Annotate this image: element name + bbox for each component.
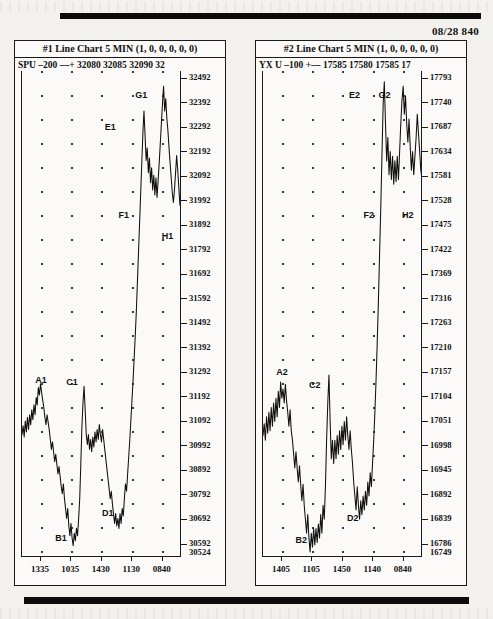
y-tick-label: 17369 <box>430 268 451 278</box>
y-tick-label: 31892 <box>189 219 210 229</box>
y-tick-label: 32092 <box>189 170 210 180</box>
y-tick-label: 17051 <box>430 415 451 425</box>
chart-2-grid-column <box>373 71 375 557</box>
chart-1-y-tick: 31592 <box>181 293 225 303</box>
chart-1-x-tickmark <box>162 557 163 561</box>
chart-2-x-label: 1450 <box>333 564 351 574</box>
chart-2-y-tick: 16839 <box>422 513 466 523</box>
chart-1-x-tickmark <box>101 557 102 561</box>
chart-2-quote-line: YX U –100 +–– 17585 17580 17585 17 <box>256 58 466 72</box>
date-stamp: 08/28 840 <box>432 25 479 37</box>
chart-1-y-tick: 30992 <box>181 440 225 450</box>
chart-1-y-tick: 30892 <box>181 464 225 474</box>
chart-1-y-tick: 31992 <box>181 195 225 205</box>
chart-2-y-tick: 17210 <box>422 342 466 352</box>
chart-1-point-label-g1: G1 <box>135 90 147 100</box>
chart-1-y-tick: 31292 <box>181 366 225 376</box>
chart-2-y-tick: 17369 <box>422 268 466 278</box>
chart-2-title: #2 Line Chart 5 MIN (1, 0, 0, 0, 0, 0) <box>256 41 466 58</box>
chart-2-y-tick: 17581 <box>422 170 466 180</box>
chart-1-quote-line: SPU –200 ––+ 32080 32085 32090 32 <box>15 58 225 72</box>
chart-2-y-tick: 16945 <box>422 464 466 474</box>
chart-2-y-tick: 17263 <box>422 317 466 327</box>
y-tick-label: 17210 <box>430 342 451 352</box>
y-tick-label: 17740 <box>430 97 451 107</box>
chart-1-point-label-c1: C1 <box>66 377 78 387</box>
chart-1-y-tick: 31192 <box>181 391 225 401</box>
y-tick-label: 17263 <box>430 317 451 327</box>
y-tick-label: 30892 <box>189 464 210 474</box>
chart-1-y-tick: 32492 <box>181 72 225 82</box>
chart-2-y-tick: 17316 <box>422 293 466 303</box>
chart-2-x-tickmark <box>372 557 373 561</box>
top-rule <box>60 13 481 19</box>
y-tick-label: 17793 <box>430 72 451 82</box>
y-tick-label: 17475 <box>430 219 451 229</box>
chart-2-point-label-c2: C2 <box>309 380 321 390</box>
chart-2-x-axis: 14051105145011400840 <box>262 556 422 585</box>
chart-1-grid-column <box>162 71 164 557</box>
y-tick-label: 17104 <box>430 391 451 401</box>
chart-2-y-tick: 17475 <box>422 219 466 229</box>
y-tick-label: 32392 <box>189 97 210 107</box>
chart-2-plot: A2B2C2D2E2F2G2H2 <box>262 71 422 557</box>
chart-1-point-label-a1: A1 <box>35 375 47 385</box>
y-tick-label: 16945 <box>430 464 451 474</box>
y-tick-label: 17157 <box>430 366 451 376</box>
chart-1-y-tick: 32192 <box>181 146 225 156</box>
chart-2-y-tick: 17104 <box>422 391 466 401</box>
y-tick-label: 17634 <box>430 146 451 156</box>
y-tick-label: 17687 <box>430 121 451 131</box>
chart-2-grid-column <box>312 71 314 557</box>
chart-1-point-label-e1: E1 <box>105 122 116 132</box>
chart-2-y-bottom-label: 16749 <box>422 547 474 557</box>
chart-2-y-tick: 17157 <box>422 366 466 376</box>
chart-2-x-tickmark <box>342 557 343 561</box>
chart-1-grid-column <box>101 71 103 557</box>
y-tick-label: 31792 <box>189 244 210 254</box>
y-tick-label: 16839 <box>430 513 451 523</box>
scan-speckle-top <box>0 2 493 12</box>
y-tick-label: 31192 <box>189 391 210 401</box>
chart-1-y-tick: 32392 <box>181 97 225 107</box>
chart-1-point-label-d1: D1 <box>102 508 114 518</box>
y-tick-label: 30792 <box>189 489 210 499</box>
chart-2-x-label: 1105 <box>303 564 321 574</box>
y-tick-label: 32492 <box>189 72 210 82</box>
chart-2-point-label-h2: H2 <box>402 210 414 220</box>
chart-1-body: A1B1C1D1E1F1G1H1 32492323923229232192320… <box>15 71 225 557</box>
y-tick-label: 31992 <box>189 195 210 205</box>
chart-2-y-tick: 17687 <box>422 121 466 131</box>
chart-2-grid-column <box>282 71 284 557</box>
chart-1-y-axis: 3249232392322923219232092319923189231792… <box>180 71 225 557</box>
chart-2-x-tickmark <box>403 557 404 561</box>
chart-1-y-tick: 31692 <box>181 268 225 278</box>
chart-2-x-tickmark <box>281 557 282 561</box>
chart-1-point-label-f1: F1 <box>118 210 129 220</box>
y-tick-label: 31592 <box>189 293 210 303</box>
y-tick-label: 17422 <box>430 244 451 254</box>
y-tick-label: 31692 <box>189 268 210 278</box>
chart-1-grid-column <box>41 71 43 557</box>
chart-2-point-label-f2: F2 <box>363 210 374 220</box>
chart-1-x-label: 1335 <box>31 564 49 574</box>
chart-2-x-tickmark <box>311 557 312 561</box>
chart-1-y-tick: 32292 <box>181 121 225 131</box>
chart-2-point-label-b2: B2 <box>295 535 307 545</box>
chart-1-y-bottom-label: 30524 <box>181 547 233 557</box>
y-tick-label: 16892 <box>430 489 451 499</box>
chart-1-y-tick: 30692 <box>181 513 225 523</box>
y-tick-label: 17316 <box>430 293 451 303</box>
chart-1-plot: A1B1C1D1E1F1G1H1 <box>21 71 181 557</box>
chart-2-point-label-a2: A2 <box>276 367 288 377</box>
chart-2-y-tick: 17051 <box>422 415 466 425</box>
bottom-rule <box>24 597 469 604</box>
chart-2-point-label-e2: E2 <box>349 90 360 100</box>
chart-panel-1: #1 Line Chart 5 MIN (1, 0, 0, 0, 0, 0) S… <box>14 40 226 586</box>
chart-panel-2: #2 Line Chart 5 MIN (1, 0, 0, 0, 0, 0) Y… <box>255 40 467 586</box>
y-tick-label: 17528 <box>430 195 451 205</box>
chart-1-x-label: 0840 <box>153 564 171 574</box>
chart-1-title: #1 Line Chart 5 MIN (1, 0, 0, 0, 0, 0) <box>15 41 225 58</box>
chart-1-y-tick: 31892 <box>181 219 225 229</box>
